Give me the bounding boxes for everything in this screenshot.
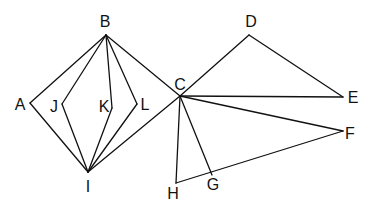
point-labels: ABCDEFGHIJKL	[15, 13, 359, 202]
point-label-d: D	[245, 13, 257, 30]
point-label-g: G	[207, 176, 219, 193]
segment-cd	[180, 35, 249, 96]
point-label-j: J	[50, 98, 58, 115]
point-label-k: K	[99, 98, 110, 115]
point-label-a: A	[15, 96, 26, 113]
segment-ch	[176, 96, 180, 183]
point-label-c: C	[174, 76, 186, 93]
point-label-f: F	[345, 125, 355, 142]
point-label-i: I	[86, 178, 90, 195]
segment-ia	[30, 103, 88, 172]
segment-hf	[176, 131, 343, 183]
segment-cf	[180, 96, 343, 131]
point-label-h: H	[167, 185, 179, 202]
point-label-b: B	[100, 13, 111, 30]
segment-bc	[106, 35, 180, 96]
segment-ba	[30, 35, 106, 103]
point-label-l: L	[141, 96, 150, 113]
segment-ce	[180, 96, 343, 97]
point-label-e: E	[348, 89, 359, 106]
segment-ij	[62, 104, 88, 172]
segment-cg	[180, 96, 212, 175]
line-segments	[30, 35, 343, 183]
geometry-diagram: ABCDEFGHIJKL	[0, 0, 372, 208]
segment-bj	[62, 35, 106, 104]
segment-de	[249, 35, 343, 97]
